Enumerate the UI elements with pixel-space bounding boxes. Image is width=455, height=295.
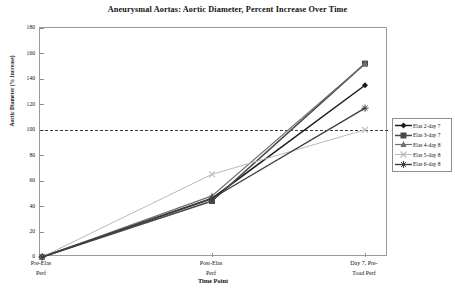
chart-title: Aneurysmal Aortas: Aortic Diameter, Perc…: [0, 5, 455, 14]
series-line-2: [42, 64, 365, 257]
y-tick-label: 20: [5, 228, 35, 234]
legend-label: Elas 6-day 8: [412, 161, 441, 167]
legend-item[interactable]: Elas 3-day 7: [395, 131, 449, 141]
legend-item[interactable]: Elas 2-day 7: [395, 121, 449, 131]
data-point-x: [209, 171, 215, 177]
x-tick-label: Day 7, Pre-Toad Perf: [324, 259, 404, 278]
legend-marker-diamond-icon: [395, 121, 412, 130]
legend-label: Elas 5-day 8: [412, 152, 441, 158]
data-point-asterisk: [208, 195, 215, 202]
legend-item[interactable]: Elas 5-day 8: [395, 150, 449, 160]
chart-legend: Elas 2-day 7Elas 3-day 7Elas 4-day 8Elas…: [392, 118, 452, 172]
series-line-4: [42, 108, 365, 257]
data-point-x: [362, 127, 368, 133]
y-tick-label: 120: [5, 101, 35, 107]
series-line-0: [42, 85, 365, 257]
legend-marker-asterisk-icon: [395, 160, 412, 169]
chart-container: Aneurysmal Aortas: Aortic Diameter, Perc…: [0, 0, 455, 295]
legend-marker-square-icon: [395, 131, 412, 140]
legend-item[interactable]: Elas 6-day 8: [395, 159, 449, 169]
x-tick-label: Pre-ElasPerf: [1, 259, 81, 278]
legend-marker-x-icon: [395, 150, 412, 159]
series-line-1: [42, 64, 365, 257]
y-tick-label: 100: [5, 126, 35, 132]
legend-label: Elas 3-day 7: [412, 132, 441, 138]
series-line-3: [42, 130, 365, 257]
y-tick-label: 40: [5, 203, 35, 209]
x-axis-title: Time Point: [39, 277, 387, 284]
data-point-diamond: [401, 123, 407, 129]
legend-label: Elas 2-day 7: [412, 123, 441, 129]
data-point-square: [401, 132, 407, 138]
series-layer: [40, 28, 388, 257]
legend-marker-triangle-icon: [395, 140, 412, 149]
y-tick-label: 180: [5, 24, 35, 30]
plot-area: 020406080100120140160180: [39, 27, 387, 256]
data-point-asterisk: [361, 105, 368, 112]
y-tick-label: 140: [5, 75, 35, 81]
x-tick-label: Post-ElasPerf: [171, 259, 251, 278]
data-point-asterisk: [400, 161, 407, 168]
y-tick-label: 80: [5, 152, 35, 158]
legend-label: Elas 4-day 8: [412, 142, 441, 148]
y-tick-label: 60: [5, 177, 35, 183]
y-tick-label: 160: [5, 50, 35, 56]
legend-item[interactable]: Elas 4-day 8: [395, 140, 449, 150]
